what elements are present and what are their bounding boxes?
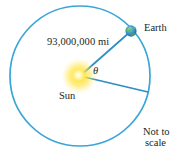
earth-label: Earth (144, 22, 167, 33)
sun-label: Sun (59, 90, 75, 101)
not-to-scale-line-1: Not to (143, 126, 170, 137)
earth-icon (126, 26, 137, 37)
not-to-scale-note: Not to scale (143, 126, 170, 149)
angle-theta-label: θ (93, 65, 98, 76)
not-to-scale-line-2: scale (143, 137, 170, 148)
orbit-diagram-figure: 93,000,000 mi Earth Sun θ Not to scale (0, 0, 182, 161)
sun-core (73, 70, 85, 82)
distance-label: 93,000,000 mi (47, 36, 109, 47)
